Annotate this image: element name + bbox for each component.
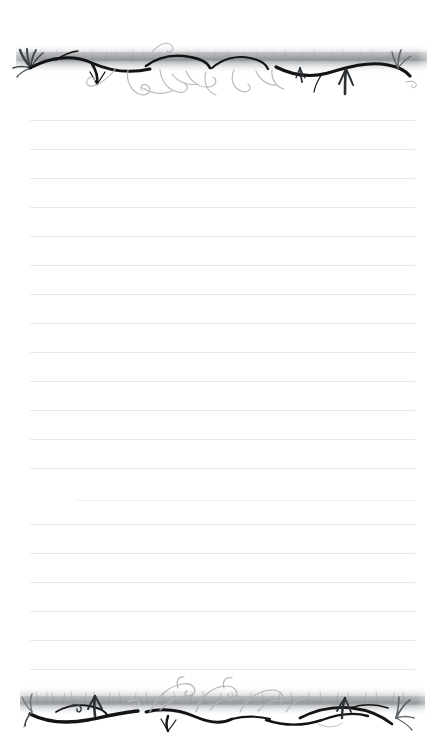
rule-line <box>75 500 415 501</box>
rule-line <box>30 381 415 382</box>
rule-line <box>30 178 415 179</box>
rule-line <box>30 611 415 612</box>
rule-line <box>30 553 415 554</box>
rule-line <box>30 468 415 469</box>
rule-line <box>30 410 415 411</box>
rule-line <box>30 524 415 525</box>
rule-line <box>30 149 415 150</box>
rule-line <box>30 207 415 208</box>
rule-line <box>30 669 415 670</box>
rule-line <box>30 120 415 121</box>
stationery-page <box>0 0 443 737</box>
rule-line <box>30 582 415 583</box>
rule-line <box>30 352 415 353</box>
rule-line <box>30 640 415 641</box>
rule-line <box>30 236 415 237</box>
rule-line <box>30 323 415 324</box>
rule-line <box>30 265 415 266</box>
ruled-writing-lines <box>0 0 443 737</box>
rule-line <box>30 294 415 295</box>
rule-line <box>30 439 415 440</box>
